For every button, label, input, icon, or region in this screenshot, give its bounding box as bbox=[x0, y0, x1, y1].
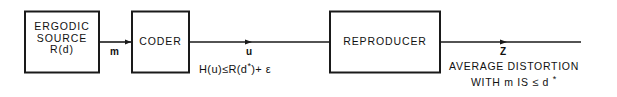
rate-constraint-plus-epsilon: + ε bbox=[255, 63, 271, 75]
average-distortion-line2: WITH m IS ≤ d * bbox=[434, 73, 594, 89]
block-rect-reproducer bbox=[330, 12, 440, 73]
arrowhead-u bbox=[245, 39, 252, 44]
block-rect-ergodic-source bbox=[25, 12, 99, 73]
arrowhead-z bbox=[500, 39, 507, 44]
block-diagram-figure: ERGODIC SOURCE R(d) CODER REPRODUCER m u… bbox=[0, 0, 617, 97]
rate-constraint-rhs-base: R(d bbox=[228, 63, 247, 75]
average-distortion-operator: ≤ bbox=[532, 76, 539, 88]
average-distortion-line2-suffix: d bbox=[539, 76, 553, 88]
annotation-rate-constraint: H(u)≤R(d*)+ ε bbox=[199, 60, 271, 76]
block-rect-coder bbox=[132, 12, 189, 73]
rate-constraint-lhs: H(u) bbox=[199, 63, 222, 75]
average-distortion-star: * bbox=[553, 74, 557, 84]
signal-label-m: m bbox=[110, 46, 119, 57]
signal-label-u: u bbox=[246, 46, 252, 57]
signal-label-z: Z bbox=[500, 46, 506, 57]
average-distortion-line2-prefix: WITH m IS bbox=[471, 76, 532, 88]
average-distortion-line1: AVERAGE DISTORTION bbox=[434, 60, 594, 73]
annotation-average-distortion: AVERAGE DISTORTION WITH m IS ≤ d * bbox=[434, 60, 594, 89]
